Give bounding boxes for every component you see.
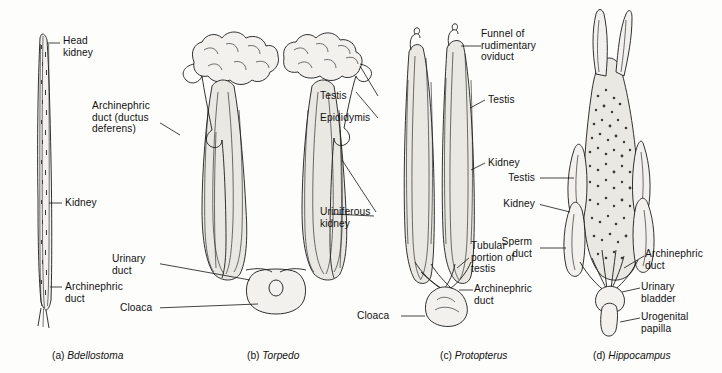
label-funnel-of-rudimentary-oviduct: Funnel of rudimentary oviduct bbox=[481, 28, 536, 63]
central-kidney bbox=[583, 58, 638, 280]
label-epididymis: Epididymis bbox=[320, 112, 370, 124]
label-archinephric-duct-ductus-deferens: Archinephric duct (ductus deferens) bbox=[92, 100, 187, 135]
hippocampus-drawing bbox=[540, 0, 722, 340]
right-testis bbox=[284, 33, 362, 81]
caption-a-prefix: (a) bbox=[52, 350, 64, 361]
caption-c-prefix: (c) bbox=[440, 350, 452, 361]
label-kidney: Kidney bbox=[488, 157, 520, 169]
panel-hippocampus: Testis Kidney Sperm duct Archinephric du… bbox=[540, 0, 722, 373]
label-urinary-duct: Urinary duct bbox=[112, 253, 146, 276]
urogenital-papilla bbox=[601, 303, 618, 336]
bdellostoma-kidney-strip bbox=[38, 34, 52, 328]
label-testis: Testis bbox=[475, 172, 535, 184]
label-cloaca: Cloaca bbox=[357, 310, 389, 322]
caption-a-taxon: Bdellostoma bbox=[67, 350, 123, 361]
cloaca bbox=[425, 287, 467, 327]
label-kidney: Kidney bbox=[65, 197, 97, 209]
label-kidney: Kidney bbox=[475, 198, 535, 210]
label-cloaca: Cloaca bbox=[120, 302, 152, 314]
label-urinary-bladder: Urinary bladder bbox=[641, 281, 676, 304]
caption-panel-a: (a) Bdellostoma bbox=[52, 350, 123, 361]
caption-d-prefix: (d) bbox=[593, 350, 605, 361]
caption-b-prefix: (b) bbox=[247, 350, 259, 361]
caption-d-taxon: Hippocampus bbox=[608, 350, 670, 361]
label-urogenital-papilla: Urogenital papilla bbox=[641, 311, 688, 334]
label-archinephric-duct: Archinephric duct bbox=[474, 283, 532, 306]
caption-b-taxon: Torpedo bbox=[262, 350, 299, 361]
label-sperm-duct: Sperm duct bbox=[472, 236, 532, 259]
caption-panel-b: (b) Torpedo bbox=[247, 350, 299, 361]
right-testis-kidney bbox=[442, 41, 474, 284]
figure-urogenital-systems: Head kidney Kidney Archinephric duct (a)… bbox=[0, 0, 722, 373]
label-head-kidney: Head kidney bbox=[63, 35, 93, 58]
label-archinephric-duct: Archinephric duct bbox=[645, 248, 703, 271]
cloaca bbox=[246, 269, 305, 314]
caption-panel-c: (c) Protopterus bbox=[440, 350, 507, 361]
caption-c-taxon: Protopterus bbox=[455, 350, 508, 361]
label-uriniferous-kidney: Uriniferous kidney bbox=[320, 206, 370, 229]
torpedo-drawing bbox=[160, 0, 395, 340]
panel-bdellostoma: Head kidney Kidney Archinephric duct (a)… bbox=[0, 0, 175, 373]
label-testis: Testis bbox=[488, 94, 515, 106]
caption-panel-d: (d) Hippocampus bbox=[593, 350, 671, 361]
left-testis-kidney bbox=[404, 45, 434, 284]
left-testis bbox=[192, 32, 278, 85]
right-uriniferous-kidney bbox=[302, 80, 347, 280]
label-testis: Testis bbox=[320, 90, 347, 102]
label-archinephric-duct: Archinephric duct bbox=[65, 281, 123, 304]
